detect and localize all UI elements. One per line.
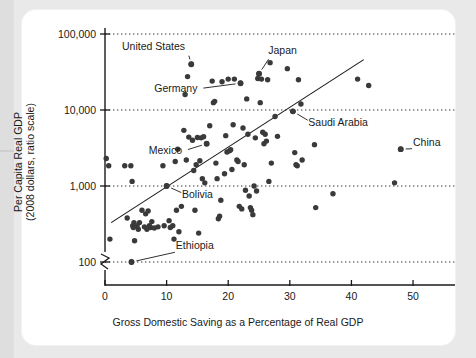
data-point — [285, 66, 290, 71]
leader-line-japan — [262, 59, 269, 69]
data-point — [181, 128, 186, 133]
data-point — [267, 60, 272, 65]
data-point — [254, 188, 259, 193]
data-point-japan — [256, 71, 262, 77]
data-point — [201, 134, 206, 139]
annotation-label-mexico: Mexico — [149, 144, 182, 156]
y-axis-title-line1: Per Capita Real GDP — [12, 112, 24, 212]
x-tick-label-30: 30 — [284, 290, 296, 302]
annotation-label-china: China — [413, 136, 441, 148]
data-point — [104, 156, 109, 161]
data-point — [190, 138, 195, 143]
data-point — [235, 159, 240, 164]
data-point — [170, 223, 175, 228]
leader-line-bolivia — [171, 188, 181, 193]
data-point — [296, 77, 301, 82]
x-axis-title: Gross Domestic Saving as a Percentage of… — [0, 316, 476, 328]
data-point — [250, 212, 255, 217]
data-point — [222, 171, 227, 176]
data-point — [299, 157, 304, 162]
data-point — [251, 183, 256, 188]
data-point — [160, 163, 165, 168]
data-point — [240, 125, 245, 130]
x-tick-label-20: 20 — [222, 290, 234, 302]
data-point — [366, 83, 371, 88]
data-point — [128, 163, 133, 168]
data-point — [192, 208, 197, 213]
data-point — [219, 79, 224, 84]
annotation-label-japan: Japan — [268, 44, 297, 56]
annotation-label-united-states: United States — [122, 40, 185, 52]
data-point — [214, 176, 219, 181]
x-tick-label-50: 50 — [407, 290, 419, 302]
data-point-ethiopia — [129, 259, 135, 265]
data-point — [246, 193, 251, 198]
data-point — [217, 214, 222, 219]
data-point — [229, 167, 234, 172]
data-point — [355, 76, 360, 81]
data-point — [124, 215, 129, 220]
data-point — [149, 219, 154, 224]
data-point — [161, 223, 166, 228]
data-point — [269, 160, 274, 165]
data-point — [218, 198, 223, 203]
data-point — [145, 208, 150, 213]
data-point — [253, 135, 258, 140]
y-tick-label-100: 100 — [78, 256, 96, 268]
data-point — [330, 191, 335, 196]
data-point — [298, 101, 303, 106]
data-point — [292, 150, 297, 155]
x-tick-label-0: 0 — [102, 290, 108, 302]
data-point — [265, 77, 270, 82]
data-point — [212, 99, 217, 104]
data-point-saudi-arabia — [290, 108, 296, 114]
data-point — [166, 218, 171, 223]
data-point — [242, 162, 247, 167]
y-axis-title: Per Capita Real GDP (2008 dollars, ratio… — [12, 92, 36, 232]
y-tick-label-1,000: 1,000 — [70, 180, 96, 192]
x-tick-label-40: 40 — [346, 290, 358, 302]
data-point — [312, 142, 317, 147]
data-point — [275, 134, 280, 139]
data-point — [313, 205, 318, 210]
annotation-label-germany: Germany — [154, 82, 198, 94]
data-point — [264, 138, 269, 143]
data-point — [230, 122, 235, 127]
data-point — [185, 74, 190, 79]
data-point — [392, 180, 397, 185]
leader-line-united-states — [189, 56, 190, 60]
data-point — [207, 123, 212, 128]
data-point — [223, 133, 228, 138]
data-point-bolivia — [164, 183, 170, 189]
data-point-united-states — [188, 61, 194, 67]
y-tick-label-100,000: 100,000 — [58, 28, 96, 40]
data-point — [129, 179, 134, 184]
data-point — [173, 159, 178, 164]
data-point — [259, 76, 264, 81]
data-point — [137, 220, 142, 225]
data-point — [295, 163, 300, 168]
annotation-label-bolivia: Bolivia — [182, 188, 213, 200]
leader-line-germany — [203, 84, 235, 88]
data-point — [107, 236, 112, 241]
data-point-china — [398, 146, 404, 152]
trendline — [111, 60, 364, 223]
data-point — [266, 179, 271, 184]
data-point-germany — [238, 80, 244, 86]
data-point — [209, 78, 214, 83]
data-point — [136, 227, 141, 232]
scatter-plot: 1001,00010,000100,00001020304050United S… — [0, 0, 476, 358]
data-point — [226, 76, 231, 81]
data-point — [122, 163, 127, 168]
data-point — [258, 100, 263, 105]
data-point — [262, 132, 267, 137]
data-point — [155, 224, 160, 229]
y-tick-label-10,000: 10,000 — [64, 104, 96, 116]
leader-line-mexico — [188, 145, 202, 149]
data-point — [272, 114, 277, 119]
data-point — [174, 208, 179, 213]
data-point — [196, 230, 201, 235]
data-point — [232, 76, 237, 81]
data-point — [239, 206, 244, 211]
annotation-label-saudi-arabia: Saudi Arabia — [308, 116, 368, 128]
